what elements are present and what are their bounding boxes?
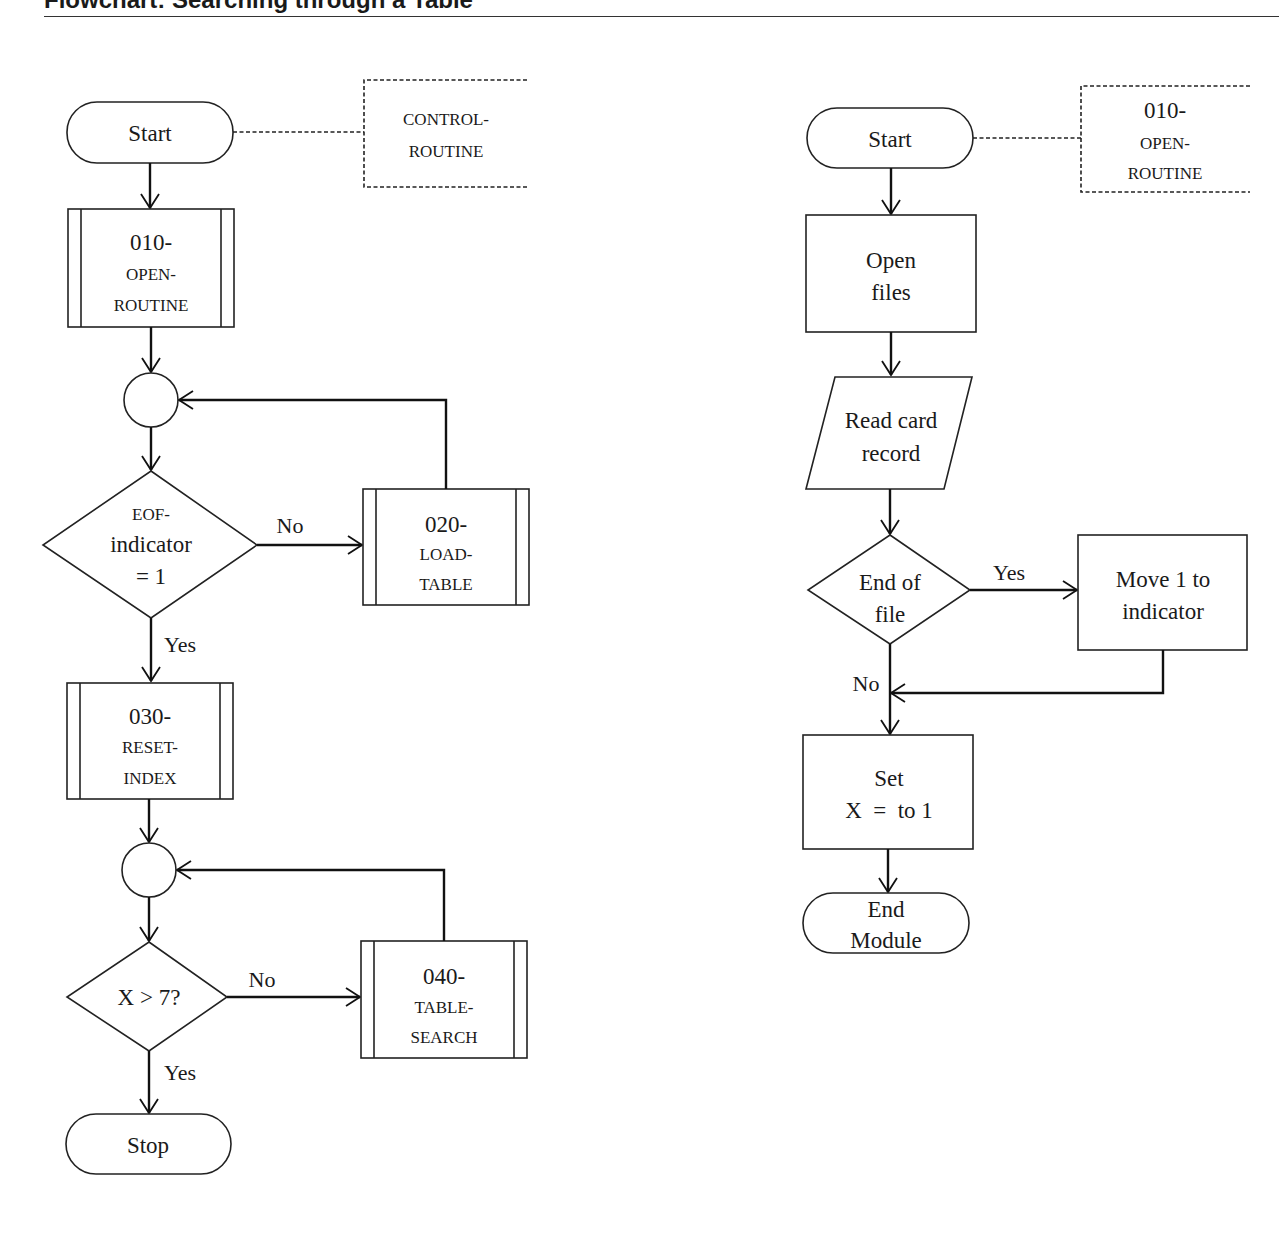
arrow-table-search-loop <box>177 870 444 941</box>
left-annotation-line1: CONTROL- <box>403 110 489 129</box>
open-routine-name-2: ROUTINE <box>114 296 189 315</box>
right-end-terminal: End Module <box>803 893 969 953</box>
right-start-label: Start <box>868 127 912 152</box>
left-annotation-line2: ROUTINE <box>409 142 484 161</box>
left-connector-2 <box>122 843 176 897</box>
right-open-files-box: Open files <box>806 215 976 332</box>
set-x-line1: Set <box>874 766 904 791</box>
right-flowchart: Start 010- OPEN- ROUTINE Open files Read… <box>803 86 1250 953</box>
eof-line3: = 1 <box>136 564 166 589</box>
right-start-terminal: Start <box>807 108 973 168</box>
reset-index-code: 030- <box>129 704 171 729</box>
read-record-line1: Read card <box>845 408 938 433</box>
table-search-name-1: TABLE- <box>414 998 473 1017</box>
left-reset-index-box: 030- RESET- INDEX <box>67 683 233 799</box>
right-annotation-code: 010- <box>1144 98 1186 123</box>
eof-yes-label: Yes <box>164 632 196 657</box>
left-start-label: Start <box>128 121 172 146</box>
reset-index-name-1: RESET- <box>122 738 178 757</box>
read-record-line2: record <box>862 441 921 466</box>
arrow-move-merge <box>891 650 1163 693</box>
load-table-code: 020- <box>425 512 467 537</box>
right-annotation-name-1: OPEN- <box>1140 134 1190 153</box>
right-read-record-io: Read card record <box>806 377 972 489</box>
x-yes-label: Yes <box>164 1060 196 1085</box>
left-annotation-bracket <box>364 80 527 187</box>
open-files-line1: Open <box>866 248 916 273</box>
right-move-indicator-box: Move 1 to indicator <box>1078 535 1247 650</box>
open-files-line2: files <box>871 280 911 305</box>
open-routine-code: 010- <box>130 230 172 255</box>
left-stop-terminal: Stop <box>66 1114 231 1174</box>
right-set-x-box: Set X = to 1 <box>803 735 973 849</box>
eof-no-label: No <box>277 513 304 538</box>
flowchart-canvas: Start CONTROL- ROUTINE 010- OPEN- ROUTIN… <box>0 0 1279 1233</box>
left-connector-1 <box>124 373 178 427</box>
left-load-table-box: 020- LOAD- TABLE <box>363 489 529 605</box>
right-no-label: No <box>853 671 880 696</box>
eof-line1: EOF- <box>132 505 170 524</box>
right-eof-decision: End of file <box>808 535 970 644</box>
table-search-name-2: SEARCH <box>410 1028 477 1047</box>
move-indicator-line1: Move 1 to <box>1116 567 1211 592</box>
set-x-line2: X = to 1 <box>845 798 933 823</box>
table-search-code: 040- <box>423 964 465 989</box>
end-of-file-line1: End of <box>859 570 921 595</box>
eof-line2: indicator <box>110 532 192 557</box>
reset-index-name-2: INDEX <box>124 769 177 788</box>
left-flowchart: Start CONTROL- ROUTINE 010- OPEN- ROUTIN… <box>43 80 529 1174</box>
right-annotation-name-2: ROUTINE <box>1128 164 1203 183</box>
end-of-file-line2: file <box>875 602 906 627</box>
end-module-line2: Module <box>850 928 922 953</box>
load-table-name-2: TABLE <box>419 575 472 594</box>
right-yes-label: Yes <box>993 560 1025 585</box>
left-table-search-box: 040- TABLE- SEARCH <box>361 941 527 1058</box>
stop-label: Stop <box>127 1133 169 1158</box>
left-eof-decision: EOF- indicator = 1 <box>43 471 257 618</box>
left-x-decision: X > 7? <box>67 942 227 1051</box>
move-indicator-line2: indicator <box>1122 599 1204 624</box>
left-start-terminal: Start <box>67 102 233 163</box>
left-open-routine-box: 010- OPEN- ROUTINE <box>68 209 234 327</box>
end-module-line1: End <box>867 897 905 922</box>
open-routine-name-1: OPEN- <box>126 265 176 284</box>
x-decision-label: X > 7? <box>118 985 181 1010</box>
load-table-name-1: LOAD- <box>420 545 473 564</box>
x-no-label: No <box>249 967 276 992</box>
arrow-load-table-loop <box>179 400 446 489</box>
